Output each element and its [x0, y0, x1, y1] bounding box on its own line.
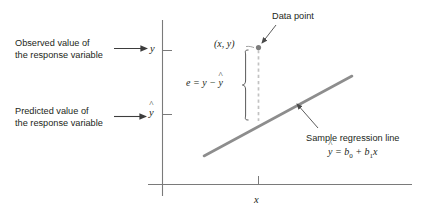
equation-rhs-part2: + b: [353, 146, 370, 157]
residual-formula-prefix: e = y −: [186, 77, 218, 88]
residual-brace: [242, 50, 248, 120]
observed-value-caption-line1: Observed value of: [15, 38, 103, 50]
point-coordinates-label: (x, y): [214, 38, 235, 51]
coordinate-leader: [246, 46, 254, 47]
x-axis-label-text: x: [254, 194, 259, 205]
y-axis-label-predicted: ^ y: [149, 106, 154, 119]
observed-value-caption: Observed value of the response variable: [15, 38, 103, 62]
predicted-value-caption: Predicted value of the response variable: [15, 106, 103, 130]
y-axis-label-observed: y: [150, 42, 155, 55]
predicted-value-caption-line1: Predicted value of: [15, 106, 103, 118]
hat-accent-icon: ^: [328, 139, 332, 151]
x-axis-label: x: [254, 193, 259, 206]
observed-value-caption-line2: the response variable: [15, 50, 103, 62]
data-point-marker: [256, 45, 261, 50]
equation-rhs-part1: = b: [332, 146, 349, 157]
point-coordinates-text: (x, y): [214, 38, 235, 49]
regression-equation: ^y = b0 + b1x: [306, 146, 399, 161]
regression-line-arrow: [297, 104, 318, 128]
residual-formula-label: e = y − ^y: [186, 77, 223, 90]
equation-rhs-part3: x: [373, 146, 377, 157]
hat-accent-icon: ^: [218, 70, 222, 82]
residual-y-hat-glyph: ^y: [218, 77, 222, 90]
data-point-caption-text: Data point: [272, 11, 314, 21]
data-point-arrow: [262, 25, 276, 43]
y-hat-glyph: ^ y: [149, 106, 154, 119]
data-point-caption: Data point: [272, 11, 314, 23]
regression-line-caption-text: Sample regression line: [306, 133, 399, 143]
y-axis-label-observed-text: y: [150, 43, 155, 54]
equation-y-hat-glyph: ^y: [328, 146, 332, 159]
hat-accent-icon: ^: [149, 99, 153, 111]
predicted-value-caption-line2: the response variable: [15, 118, 103, 130]
regression-residual-diagram: Observed value of the response variable …: [0, 0, 429, 214]
regression-line-caption: Sample regression line ^y = b0 + b1x: [306, 133, 399, 161]
